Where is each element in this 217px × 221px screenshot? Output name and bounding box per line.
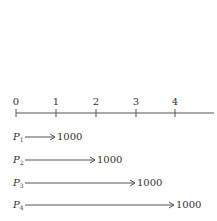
- tick-label-3: 3: [133, 97, 139, 107]
- tick-label-4: 4: [172, 97, 178, 107]
- flow-amount-p4: 1000: [176, 200, 201, 210]
- flow-label-p3: P3: [13, 178, 24, 191]
- tick-label-1: 1: [53, 97, 59, 107]
- arrow-p2: [25, 157, 95, 163]
- flow-label-p2: P2: [13, 155, 24, 168]
- tick-label-0: 0: [13, 97, 19, 107]
- arrow-p4: [25, 202, 174, 208]
- timeline-diagram: [0, 0, 217, 221]
- flow-amount-p1: 1000: [57, 132, 82, 142]
- flow-amount-p3: 1000: [137, 178, 162, 188]
- flow-label-p4: P4: [13, 200, 24, 213]
- arrow-p3: [25, 180, 135, 186]
- flow-amount-p2: 1000: [97, 155, 122, 165]
- tick-label-2: 2: [93, 97, 99, 107]
- flow-label-p1: P1: [13, 132, 24, 145]
- arrow-p1: [25, 134, 55, 140]
